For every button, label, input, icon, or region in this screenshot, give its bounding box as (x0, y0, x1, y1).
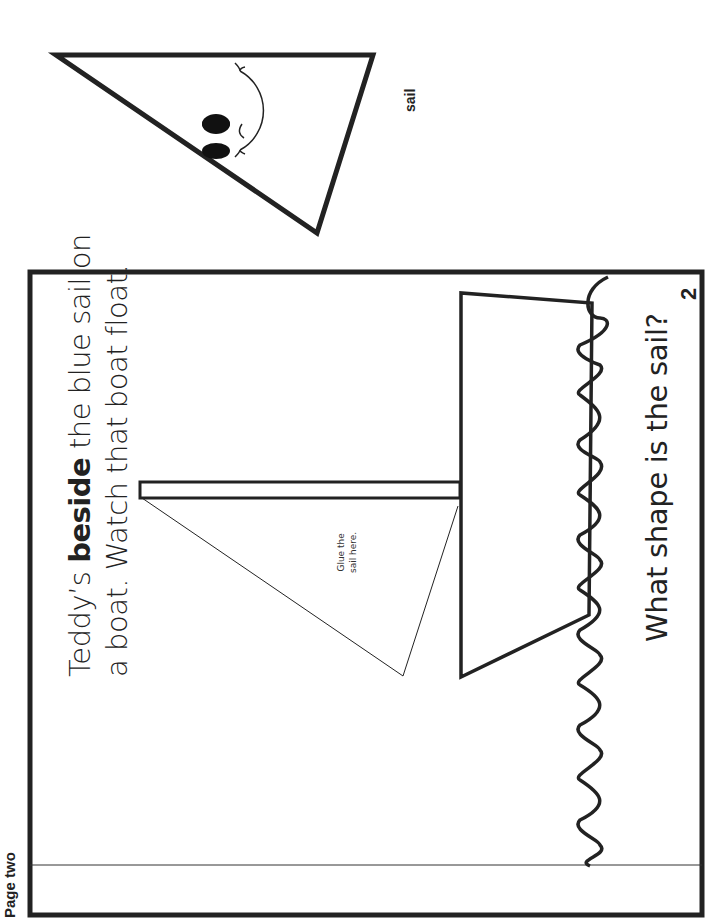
story-line1-prefix: Teddy’s (63, 563, 97, 677)
mast (140, 482, 460, 498)
sail-outline (142, 498, 458, 676)
story-text: Teddy’s beside the blue sail on a boat. … (62, 234, 136, 677)
page-number: 2 (676, 288, 702, 300)
story-line1-suffix: the blue sail on (63, 234, 97, 458)
boat-hull (461, 293, 592, 677)
glue-instruction: Glue the sail here. (335, 532, 359, 573)
page-label: Page two (1, 852, 18, 918)
story-bold-word: beside (63, 458, 97, 563)
story-line2: a boat. Watch that boat float. (99, 234, 136, 677)
glue-line2: sail here. (347, 532, 359, 573)
question-text: What shape is the sail? (640, 313, 674, 642)
sail-label: sail (402, 89, 418, 112)
glue-line1: Glue the (335, 532, 347, 573)
sail-cutout[interactable] (56, 55, 373, 233)
